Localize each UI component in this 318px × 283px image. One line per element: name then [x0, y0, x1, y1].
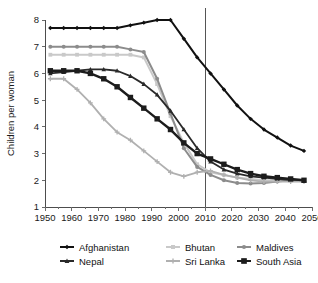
x-tick-label: 2000	[168, 212, 189, 223]
marker-square-large	[275, 175, 280, 180]
marker-square-large	[128, 95, 133, 100]
y-tick-label: 2	[34, 175, 39, 186]
fertility-line-chart: 1234567819501960197019801990200020102020…	[0, 0, 318, 283]
marker-square	[115, 53, 119, 57]
marker-square-large	[61, 68, 66, 73]
legend-item-bhutan[interactable]: Bhutan	[166, 242, 215, 253]
marker-square-large	[248, 171, 253, 176]
marker-circle	[242, 245, 246, 249]
marker-square-large	[48, 68, 53, 73]
legend: AfghanistanBhutanMaldivesNepalSri LankaS…	[60, 242, 302, 267]
marker-circle	[62, 45, 66, 49]
marker-circle	[142, 50, 146, 54]
marker-square	[48, 53, 52, 57]
x-tick-label: 2010	[195, 212, 216, 223]
y-tick-label: 7	[34, 41, 39, 52]
marker-square-large	[261, 174, 266, 179]
y-tick-label: 3	[34, 148, 39, 159]
marker-circle	[182, 146, 186, 150]
legend-item-afghanistan[interactable]: Afghanistan	[60, 242, 129, 253]
legend-item-sri-lanka[interactable]: Sri Lanka	[166, 256, 226, 267]
marker-square-large	[181, 140, 186, 145]
legend-label: Maldives	[256, 242, 294, 253]
marker-circle	[235, 181, 239, 185]
marker-diamond	[128, 23, 132, 27]
marker-plus	[170, 258, 175, 263]
marker-square	[129, 53, 133, 57]
series-line	[50, 69, 304, 180]
marker-square-large	[101, 76, 106, 81]
marker-square-large	[141, 105, 146, 110]
marker-square-large	[235, 167, 240, 172]
y-tick-label: 4	[34, 121, 39, 132]
y-axis-title: Children per woman	[5, 71, 16, 156]
marker-square-large	[241, 258, 247, 264]
x-tick-label: 1960	[61, 212, 82, 223]
marker-square-large	[114, 84, 119, 89]
marker-square-large	[168, 127, 173, 132]
marker-diamond	[155, 18, 159, 22]
x-tick-label: 2030	[248, 212, 269, 223]
series-line	[50, 71, 304, 181]
x-tick-label: 2040	[275, 212, 296, 223]
marker-diamond	[75, 26, 79, 30]
legend-label: Afghanistan	[79, 242, 129, 253]
legend-label: South Asia	[256, 256, 302, 267]
legend-item-nepal[interactable]: Nepal	[60, 256, 104, 267]
marker-square-large	[74, 68, 79, 73]
legend-item-south-asia[interactable]: South Asia	[237, 256, 302, 267]
marker-square-large	[301, 178, 306, 183]
marker-diamond	[115, 26, 119, 30]
y-tick-label: 1	[34, 201, 39, 212]
marker-square-large	[88, 71, 93, 76]
legend-label: Bhutan	[185, 242, 215, 253]
series-line	[50, 47, 304, 184]
marker-square	[171, 245, 175, 249]
series-maldives	[48, 45, 306, 186]
marker-diamond	[88, 26, 92, 30]
marker-square-large	[208, 156, 213, 161]
marker-circle	[88, 45, 92, 49]
marker-circle	[222, 178, 226, 182]
legend-label: Sri Lanka	[185, 256, 226, 267]
y-tick-label: 8	[34, 14, 39, 25]
marker-circle	[115, 45, 119, 49]
marker-plus	[195, 170, 200, 175]
marker-square	[62, 53, 66, 57]
legend-item-maldives[interactable]: Maldives	[237, 242, 294, 253]
x-tick-label: 1990	[141, 212, 162, 223]
marker-diamond	[61, 26, 65, 30]
chart-canvas: 1234567819501960197019801990200020102020…	[0, 0, 318, 283]
marker-square-large	[194, 151, 199, 156]
x-tick-label: 2020	[221, 212, 242, 223]
marker-diamond	[65, 245, 70, 250]
x-tick-label: 1980	[115, 212, 136, 223]
marker-circle	[195, 165, 199, 169]
x-tick-label: 1950	[34, 212, 55, 223]
marker-square	[75, 53, 79, 57]
legend-label: Nepal	[79, 256, 104, 267]
x-tick-label: 2050	[301, 212, 318, 223]
y-tick-label: 6	[34, 68, 39, 79]
x-tick-label: 1970	[88, 212, 109, 223]
series-south-asia	[48, 68, 307, 183]
marker-square-large	[288, 176, 293, 181]
marker-plus	[48, 76, 53, 81]
marker-circle	[209, 173, 213, 177]
marker-square-large	[154, 116, 159, 121]
marker-diamond	[142, 20, 146, 24]
marker-circle	[155, 77, 159, 81]
marker-diamond	[48, 26, 52, 30]
marker-circle	[75, 45, 79, 49]
marker-plus	[181, 174, 186, 179]
marker-circle	[102, 45, 106, 49]
marker-square-large	[221, 162, 226, 167]
marker-diamond	[102, 26, 106, 30]
marker-square	[102, 53, 106, 57]
marker-circle	[48, 45, 52, 49]
marker-square	[88, 53, 92, 57]
marker-circle	[128, 47, 132, 51]
series-nepal	[48, 67, 306, 182]
y-tick-label: 5	[34, 95, 39, 106]
